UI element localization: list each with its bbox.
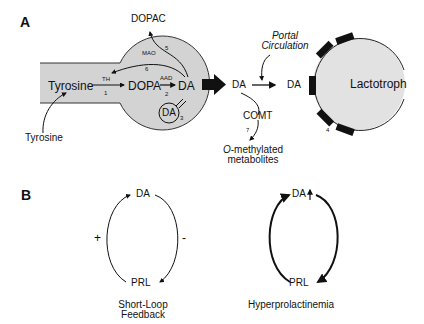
- portal-circulation-label: Portal Circulation: [255, 31, 315, 51]
- step-3-label: 3: [180, 115, 183, 121]
- da-neuron-label: DA: [178, 80, 195, 92]
- step-1-label: 1: [104, 90, 107, 96]
- lactotroph-label: Lactotroph: [350, 78, 407, 90]
- hyper-prl-label: PRL: [289, 278, 308, 288]
- tyrosine-inside-label: Tyrosine: [48, 80, 93, 92]
- diagram-canvas: [0, 0, 424, 324]
- step-7-label: 7: [246, 127, 249, 133]
- metabolites-line2: metabolites: [216, 155, 290, 165]
- hyper-da-label: DA: [292, 189, 306, 199]
- panel-a-label: A: [20, 15, 30, 29]
- receptor-step-4-label: 4: [326, 127, 329, 133]
- hyperprolactinemia-caption: Hyperprolactinemia: [248, 300, 334, 310]
- caption-line2: Feedback: [110, 310, 176, 320]
- short-loop-diagram: [107, 195, 178, 282]
- step-2-label: 2: [165, 91, 168, 97]
- panel-b-label: B: [21, 188, 31, 202]
- tyrosine-outside-label: Tyrosine: [25, 133, 63, 143]
- hyperprolactinemia-diagram: [270, 190, 338, 282]
- vesicle-da-label: DA: [162, 108, 176, 118]
- mao-label: MAO: [142, 50, 156, 56]
- da-released-label: DA: [232, 80, 246, 90]
- short-loop-da-label: DA: [136, 189, 150, 199]
- comt-arrow-icon: [250, 120, 258, 140]
- short-loop-prl-label: PRL: [131, 278, 150, 288]
- th-label: TH: [102, 76, 110, 82]
- da-portal-label: DA: [287, 80, 301, 90]
- portal-line2: Circulation: [255, 41, 315, 51]
- plus-sign: +: [94, 232, 101, 244]
- minus-sign: -: [182, 232, 186, 244]
- dopac-label: DOPAC: [131, 14, 166, 24]
- metabolites-label: O-methylated metabolites: [216, 145, 290, 165]
- dopa-label: DOPA: [128, 80, 161, 92]
- comt-label: COMT: [243, 111, 272, 121]
- short-loop-caption: Short-Loop Feedback: [110, 300, 176, 320]
- portal-arrow-icon: [262, 55, 270, 80]
- step-5-label: 5: [165, 45, 168, 51]
- step-6-label: 6: [145, 66, 148, 72]
- aad-label: AAD: [160, 75, 172, 81]
